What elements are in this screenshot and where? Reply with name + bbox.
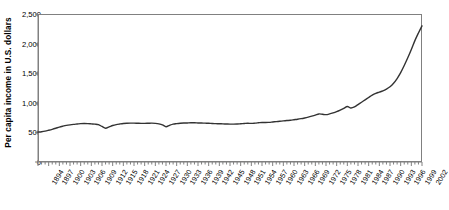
data-series-line (38, 26, 422, 132)
x-tick-label: 2002 (433, 168, 449, 186)
